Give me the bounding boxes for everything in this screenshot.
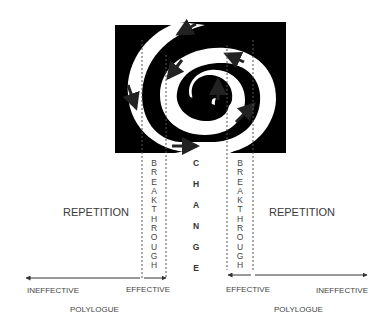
effective-right-label: EFFECTIVE: [226, 285, 270, 294]
repetition-left-label: REPETITION: [63, 206, 129, 218]
breakthrough-left-label: BREAKTHROUGH: [148, 159, 160, 271]
ineffective-left-label: INEFFECTIVE: [27, 286, 79, 295]
change-label: CHANGE: [190, 158, 202, 284]
repetition-right-label: REPETITION: [269, 206, 335, 218]
ineffective-right-label: INEFFECTIVE: [316, 286, 368, 295]
polylogue-right-label: POLYLOGUE: [274, 305, 323, 314]
spiral-block: [115, 22, 286, 153]
breakthrough-right-label: BREAKTHROUGH: [234, 159, 246, 271]
effective-left-label: EFFECTIVE: [126, 285, 170, 294]
polylogue-left-label: POLYLOGUE: [70, 305, 119, 314]
